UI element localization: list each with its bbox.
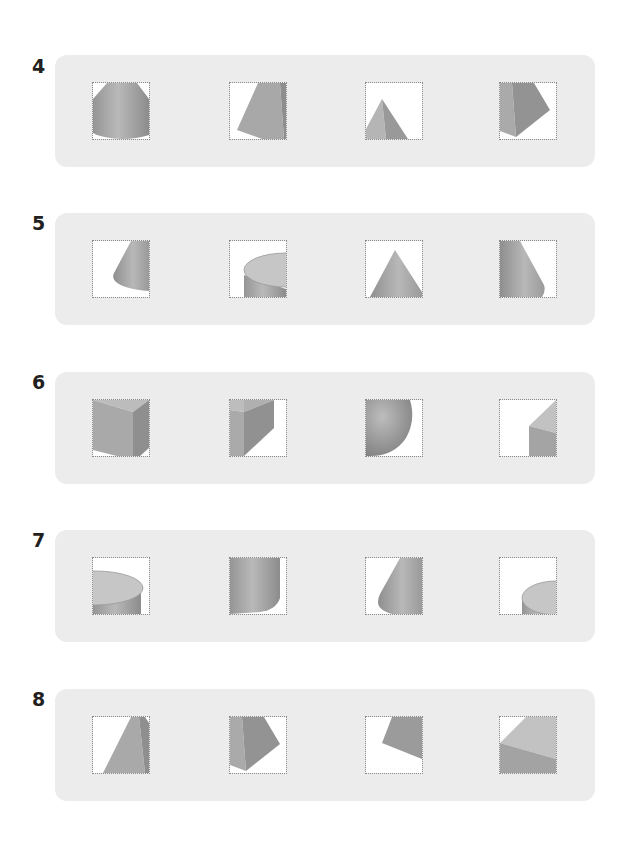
question-number: 7 xyxy=(32,530,45,550)
pyramid-pentagon-icon xyxy=(230,717,286,773)
option-b[interactable] xyxy=(230,241,286,297)
option-d[interactable] xyxy=(500,83,556,139)
option-a[interactable] xyxy=(93,241,149,297)
options-card xyxy=(55,55,595,167)
question-number: 5 xyxy=(32,213,45,233)
cone-left-icon xyxy=(500,241,556,297)
cuboid-corner-crop-icon xyxy=(500,717,556,773)
truncated-cone-icon xyxy=(93,83,149,139)
question-6: 6 xyxy=(0,372,623,492)
option-c[interactable] xyxy=(366,83,422,139)
option-b[interactable] xyxy=(230,400,286,456)
option-d[interactable] xyxy=(500,558,556,614)
option-a[interactable] xyxy=(93,717,149,773)
cylinder-corner-icon xyxy=(500,558,556,614)
option-d[interactable] xyxy=(500,241,556,297)
cuboid-small-corner-icon xyxy=(500,400,556,456)
option-a[interactable] xyxy=(93,83,149,139)
option-a[interactable] xyxy=(93,400,149,456)
pyramid-slant-icon xyxy=(93,717,149,773)
option-b[interactable] xyxy=(230,83,286,139)
question-4: 4 xyxy=(0,55,623,175)
cylinder-side-icon xyxy=(230,558,286,614)
option-d[interactable] xyxy=(500,400,556,456)
question-number: 6 xyxy=(32,372,45,392)
option-b[interactable] xyxy=(230,558,286,614)
cuboid-corner-icon xyxy=(93,400,149,456)
options-card xyxy=(55,213,595,325)
sphere-icon xyxy=(366,400,422,456)
cone-front-icon xyxy=(366,241,422,297)
question-5: 5 xyxy=(0,213,623,333)
cone-crop-icon xyxy=(366,558,422,614)
pyramid-face-icon xyxy=(366,717,422,773)
options-card xyxy=(55,530,595,642)
question-8: 8 xyxy=(0,689,623,809)
cone-crop-icon xyxy=(93,241,149,297)
option-c[interactable] xyxy=(366,717,422,773)
question-7: 7 xyxy=(0,530,623,650)
options-card xyxy=(55,372,595,484)
option-d[interactable] xyxy=(500,717,556,773)
cylinder-top-left-icon xyxy=(93,558,149,614)
option-b[interactable] xyxy=(230,717,286,773)
triangular-pyramid-icon xyxy=(366,83,422,139)
option-c[interactable] xyxy=(366,400,422,456)
question-number: 8 xyxy=(32,689,45,709)
option-c[interactable] xyxy=(366,558,422,614)
option-c[interactable] xyxy=(366,241,422,297)
options-card xyxy=(55,689,595,801)
cylinder-top-icon xyxy=(230,241,286,297)
option-a[interactable] xyxy=(93,558,149,614)
question-number: 4 xyxy=(32,56,45,76)
cuboid-edge-icon xyxy=(230,400,286,456)
pyramid-slant-icon xyxy=(230,83,286,139)
pyramid-pentagon-icon xyxy=(500,83,556,139)
